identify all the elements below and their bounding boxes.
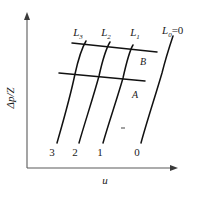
lower-isobar-line [59, 73, 145, 81]
figure-container: L3 L2 L1 L0=0 B A 3 2 1 0 Δp/Z u [0, 0, 203, 197]
curve-3-top-subscript: 3 [78, 33, 83, 41]
curve-3 [57, 41, 86, 143]
curve-1-top-label: L1 [129, 26, 140, 41]
x-axis-arrowhead [170, 165, 178, 171]
curve-2-top-subscript: 2 [107, 33, 111, 41]
curve-0-top-suffix: =0 [172, 24, 184, 36]
x-axis-group [27, 165, 178, 171]
curve-1-top-subscript: 1 [136, 33, 140, 41]
curve-2-bottom-label: 2 [72, 146, 78, 158]
curve-0-bottom-label: 0 [134, 146, 140, 158]
curve-2-top-label: L2 [100, 26, 111, 41]
curve-1 [103, 45, 133, 143]
y-axis-arrowhead [24, 12, 30, 20]
point-B-label: B [140, 56, 146, 67]
diagram-canvas: L3 L2 L1 L0=0 B A 3 2 1 0 Δp/Z u [0, 0, 203, 197]
y-axis-label: Δp/Z [4, 87, 16, 110]
curve-1-bottom-label: 1 [97, 146, 103, 158]
y-axis-group [24, 12, 30, 168]
point-A-label: A [131, 89, 139, 100]
curve-3-top-label: L3 [72, 26, 83, 41]
curve-3-bottom-label: 3 [49, 146, 55, 158]
curve-2 [79, 42, 110, 143]
x-axis-label: u [102, 174, 108, 186]
